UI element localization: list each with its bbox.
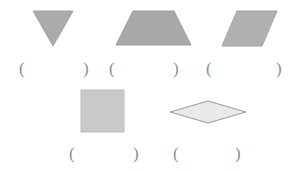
square-polygon [81,90,124,132]
answer-blank-rhombus-close[interactable]: ) [235,145,241,162]
rhombus-icon [168,99,248,125]
answer-blank-triangle-open[interactable]: ( [19,60,25,77]
answer-blank-triangle-close[interactable]: ) [83,60,89,77]
trapezoid-polygon [116,11,191,45]
shape-square [79,88,126,134]
answer-blank-parallelogram-open[interactable]: ( [206,60,212,77]
square-icon [79,88,126,134]
answer-blank-square-open[interactable]: ( [69,145,75,162]
trapezoid-icon [113,8,194,49]
shape-parallelogram [219,8,280,50]
answer-blank-parallelogram-close[interactable]: ) [276,60,282,77]
shape-rhombus [168,99,248,125]
triangle-icon [28,8,78,49]
rhombus-polygon [170,101,246,123]
parallelogram-polygon [222,11,277,46]
answer-blank-square-close[interactable]: ) [133,145,139,162]
shape-triangle [28,8,78,49]
shape-trapezoid [113,8,194,49]
worksheet-canvas: ( ) ( ) ( ) ( ) ( ) [0,0,300,171]
answer-blank-trapezoid-close[interactable]: ) [173,60,179,77]
parallelogram-icon [219,8,280,50]
answer-blank-trapezoid-open[interactable]: ( [109,60,115,77]
triangle-polygon [33,11,73,46]
answer-blank-rhombus-open[interactable]: ( [173,145,179,162]
